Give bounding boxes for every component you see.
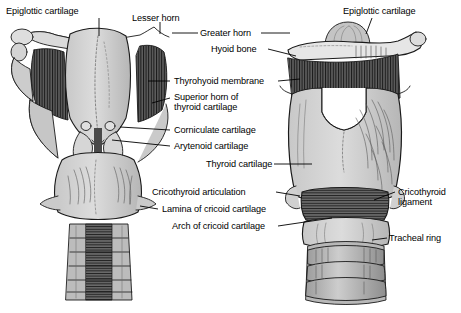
label-lesser-horn: Lesser horn <box>132 13 179 24</box>
label-tracheal-ring: Tracheal ring <box>389 233 441 244</box>
label-hyoid-bone: Hyoid bone <box>211 44 256 55</box>
label-cricothyroid-ligament-line2: ligament <box>398 197 432 208</box>
label-epiglottic-cartilage-right: Epiglottic cartilage <box>343 6 416 17</box>
trachea-posterior <box>66 224 132 300</box>
label-superior-horn-line2: thyroid cartilage <box>174 102 237 113</box>
label-greater-horn: Greater horn <box>200 28 251 39</box>
label-epiglottic-cartilage-left: Epiglottic cartilage <box>6 6 79 17</box>
label-arch-cricoid-cartilage: Arch of cricoid cartilage <box>172 221 265 232</box>
label-lamina-cricoid-cartilage: Lamina of cricoid cartilage <box>162 204 266 215</box>
larynx-anatomy-figure: Epiglottic cartilage Lesser horn Greater… <box>0 0 461 313</box>
label-superior-horn-line1: Superior horn of <box>174 92 238 103</box>
trachea-anterior <box>306 242 386 305</box>
label-corniculate-cartilage: Corniculate cartilage <box>174 125 256 136</box>
label-arytenoid-cartilage: Arytenoid cartilage <box>174 141 248 152</box>
label-cricothyroid-ligament-line1: Cricothyroid <box>398 187 446 198</box>
label-thyrohyoid-membrane: Thyrohyoid membrane <box>174 76 264 87</box>
label-cricothyroid-articulation: Cricothyroid articulation <box>152 187 246 198</box>
label-thyroid-cartilage: Thyroid cartilage <box>206 159 272 170</box>
